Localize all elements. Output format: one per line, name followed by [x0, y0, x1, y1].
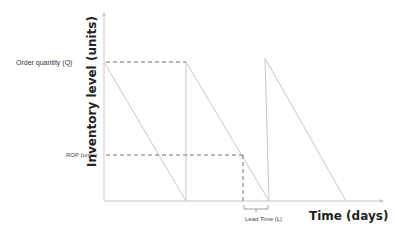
x-axis-arrow-icon: [380, 199, 384, 203]
lead-time-label: Lead Time (L): [245, 216, 282, 222]
order-quantity-label: Order quantity (Q): [16, 59, 72, 67]
y-axis-arrow-icon: [102, 12, 106, 16]
lead-time-bracket: [244, 205, 268, 212]
inventory-line: [104, 58, 346, 201]
x-axis-label: Time (days): [309, 209, 388, 223]
y-axis-label: Inventory level (units): [85, 16, 99, 167]
inventory-diagram: Order quantity (Q) ROP (units) Lead Time…: [0, 0, 395, 237]
